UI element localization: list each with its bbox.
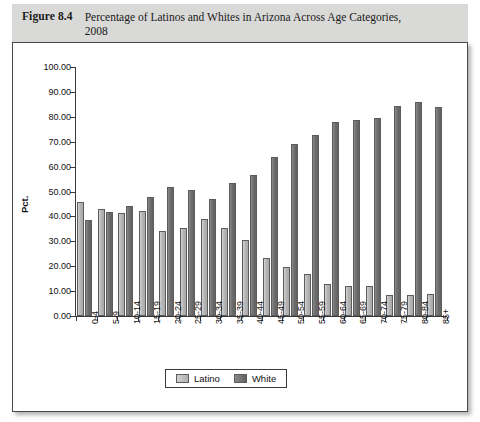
bar-group [220, 67, 241, 316]
bar-group [303, 67, 324, 316]
legend-label-latino: Latino [194, 373, 220, 384]
x-axis-tick-label: 25-29 [193, 301, 203, 324]
legend-item-white: White [234, 373, 276, 384]
bar-group [282, 67, 303, 316]
bar-white[interactable] [167, 187, 174, 316]
bar-white[interactable] [209, 199, 216, 316]
x-axis-tick-label: 15-19 [152, 301, 162, 324]
y-axis-tick-label: 80.00 [27, 112, 71, 122]
x-axis-tick-label: 80-84 [420, 301, 430, 324]
bar-white[interactable] [394, 106, 401, 316]
bar-latino[interactable] [77, 202, 84, 316]
x-axis-tick-label: 70-74 [379, 301, 389, 324]
bar-white[interactable] [126, 206, 133, 316]
bar-white[interactable] [271, 157, 278, 316]
x-axis-tick-label: 0-4 [90, 311, 100, 324]
bar-white[interactable] [332, 122, 339, 316]
chart-frame: Pct. 0.0010.0020.0030.0040.0050.0060.007… [12, 42, 468, 412]
bar-white[interactable] [229, 183, 236, 316]
y-axis-tick-label: 20.00 [27, 261, 71, 271]
bar-group [262, 67, 283, 316]
bar-group [158, 67, 179, 316]
bar-white[interactable] [188, 190, 195, 316]
chart-legend: Latino White [165, 369, 287, 388]
x-axis-tick-label: 85+ [441, 309, 451, 324]
x-axis-tick-label: 10-14 [132, 301, 142, 324]
y-axis-tick-label: 40.00 [27, 211, 71, 221]
x-axis-tick [76, 317, 77, 321]
x-axis-tick-label: 55-59 [317, 301, 327, 324]
y-axis-tick-label: 70.00 [27, 137, 71, 147]
x-axis-tick-label: 75-79 [399, 301, 409, 324]
bar-group [426, 67, 447, 316]
x-axis-tick-label: 30-34 [214, 301, 224, 324]
bar-white[interactable] [147, 197, 154, 316]
bar-white[interactable] [291, 144, 298, 316]
x-axis-tick-label: 20-24 [173, 301, 183, 324]
bar-group [97, 67, 118, 316]
y-axis-tick-label: 60.00 [27, 162, 71, 172]
bar-latino[interactable] [118, 213, 125, 316]
figure-page: Figure 8.4 Percentage of Latinos and Whi… [0, 0, 480, 422]
bar-latino[interactable] [98, 209, 105, 316]
x-axis-tick-label: 45-49 [276, 301, 286, 324]
figure-number-label: Figure 8.4 [22, 10, 73, 22]
bar-group [200, 67, 221, 316]
bar-white[interactable] [250, 175, 257, 316]
x-axis-tick-label: 35-39 [235, 301, 245, 324]
x-axis-tick-label: 65-69 [358, 301, 368, 324]
y-axis-tick-label: 10.00 [27, 286, 71, 296]
bar-group [76, 67, 97, 316]
bar-chart: Pct. 0.0010.0020.0030.0040.0050.0060.007… [13, 43, 469, 413]
x-axis-tick-label: 40-44 [255, 301, 265, 324]
bar-white[interactable] [312, 135, 319, 316]
bar-group [179, 67, 200, 316]
bar-white[interactable] [353, 120, 360, 316]
bar-group [385, 67, 406, 316]
bar-white[interactable] [374, 118, 381, 316]
bar-group [344, 67, 365, 316]
y-axis-tick-labels: 0.0010.0020.0030.0040.0050.0060.0070.008… [27, 67, 71, 315]
figure-caption: Figure 8.4 Percentage of Latinos and Whi… [12, 4, 468, 42]
x-axis-tick-label: 60-64 [338, 301, 348, 324]
legend-label-white: White [252, 373, 276, 384]
figure-title-text: Percentage of Latinos and Whites in Ariz… [85, 10, 425, 38]
y-axis-tick-label: 30.00 [27, 236, 71, 246]
y-axis-tick-label: 90.00 [27, 87, 71, 97]
bar-group [406, 67, 427, 316]
legend-swatch-white-icon [234, 374, 247, 383]
bar-white[interactable] [85, 220, 92, 316]
bar-group [323, 67, 344, 316]
bar-group [117, 67, 138, 316]
y-axis-tick-label: 50.00 [27, 187, 71, 197]
y-axis-tick-label: 0.00 [27, 311, 71, 321]
bar-white[interactable] [106, 212, 113, 316]
bar-white[interactable] [435, 107, 442, 316]
x-axis-tick-label: 50-54 [296, 301, 306, 324]
y-axis-tick-label: 100.00 [27, 62, 71, 72]
legend-swatch-latino-icon [176, 374, 189, 383]
bar-group [365, 67, 386, 316]
legend-item-latino: Latino [176, 373, 220, 384]
plot-area [76, 67, 447, 316]
x-axis-tick-label: 5-9 [111, 311, 121, 324]
bar-white[interactable] [415, 102, 422, 316]
bar-group [241, 67, 262, 316]
bar-group [138, 67, 159, 316]
